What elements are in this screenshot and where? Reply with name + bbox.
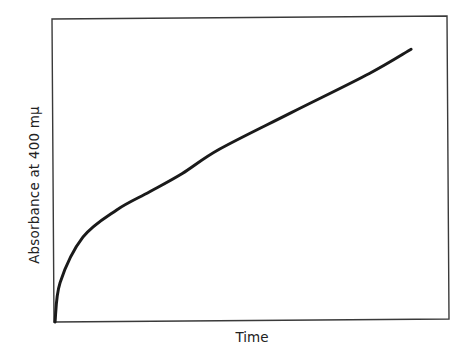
absorbance-curve — [55, 49, 411, 322]
x-axis-label: Time — [235, 329, 268, 345]
chart-plot — [0, 0, 474, 358]
y-axis-label: Absorbance at 400 mμ — [26, 106, 42, 264]
